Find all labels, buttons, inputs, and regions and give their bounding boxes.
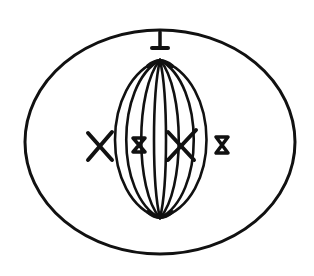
chromosome-small-right [216, 137, 228, 153]
chromosome-large-center [168, 130, 196, 160]
chromosome-small-left [133, 138, 145, 152]
chromosome-large-left [88, 132, 112, 160]
spindle-fibers [115, 60, 207, 218]
metaphase-cell-diagram [0, 0, 314, 276]
centrosome [152, 32, 168, 48]
